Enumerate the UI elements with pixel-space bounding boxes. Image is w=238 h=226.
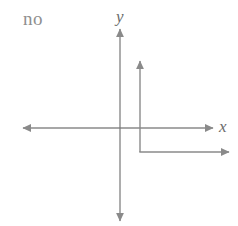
y-axis-label: y	[116, 8, 124, 25]
coordinate-plane-svg	[0, 0, 238, 226]
annotation-no-label: no	[23, 9, 43, 28]
x-axis-label: x	[219, 118, 227, 135]
graph-figure: no y x	[0, 0, 238, 226]
